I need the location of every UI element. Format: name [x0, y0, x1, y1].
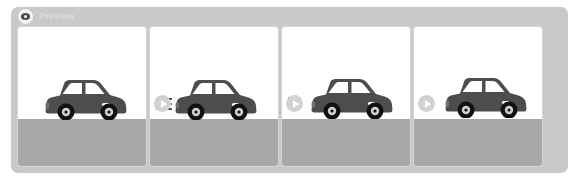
eye-iris	[21, 13, 30, 20]
car-illustration	[174, 79, 258, 120]
chevron-right-icon	[161, 100, 167, 108]
road-surface	[150, 119, 278, 166]
chevron-right-icon	[293, 100, 299, 108]
preview-header: Preview	[11, 7, 568, 26]
road-surface	[282, 119, 410, 166]
car-illustration	[310, 78, 394, 119]
frame-transition-arrow-1[interactable]	[154, 95, 171, 112]
eye-icon	[18, 9, 33, 24]
frame-1[interactable]	[17, 26, 147, 167]
frame-transition-arrow-3[interactable]	[418, 95, 435, 112]
frame-transition-arrow-2[interactable]	[286, 95, 303, 112]
eye-pupil	[24, 15, 27, 18]
chevron-right-icon	[425, 100, 431, 108]
car-illustration	[444, 77, 528, 118]
preview-title: Preview	[39, 12, 74, 21]
car-illustration	[44, 79, 128, 120]
preview-panel: Preview	[11, 7, 568, 173]
road-surface	[18, 119, 146, 166]
road-surface	[414, 119, 542, 166]
